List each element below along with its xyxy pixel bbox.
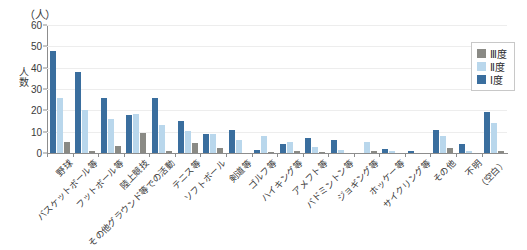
legend-swatch <box>477 49 486 58</box>
bar <box>75 72 81 153</box>
bar <box>331 140 337 153</box>
bar <box>254 150 260 153</box>
bar <box>229 130 235 153</box>
legend-item[interactable]: Ⅰ度 <box>477 73 507 86</box>
legend-label: Ⅰ度 <box>490 72 503 87</box>
bar <box>319 152 325 153</box>
x-axis-tick-label: その他 <box>430 157 458 185</box>
bar <box>126 115 132 153</box>
legend: Ⅲ度Ⅱ度Ⅰ度 <box>471 42 515 91</box>
legend-swatch <box>477 75 486 84</box>
bar-group <box>149 25 175 153</box>
bar <box>408 151 414 153</box>
bar-group <box>124 25 150 153</box>
bar <box>115 146 121 153</box>
bar-group <box>98 25 124 153</box>
bar <box>371 151 377 153</box>
bar <box>459 144 465 153</box>
bar <box>498 151 504 153</box>
bar <box>133 114 139 153</box>
bar-group <box>277 25 303 153</box>
bar-group <box>328 25 354 153</box>
plot-area: 0102030405060 <box>47 25 507 153</box>
bar <box>364 142 370 153</box>
bar <box>152 98 158 153</box>
bar <box>185 131 191 153</box>
bar <box>491 123 497 153</box>
bar <box>57 98 63 153</box>
bar <box>484 112 490 153</box>
bar <box>203 134 209 153</box>
bar <box>159 125 165 153</box>
bar <box>287 142 293 153</box>
bar-groups <box>47 25 507 153</box>
bar-chart: （人） 人数 0102030405060 野球バスケットボール等フットボール等陸… <box>0 0 527 250</box>
bar <box>178 121 184 153</box>
bar <box>64 142 70 153</box>
y-axis-title: 人数 <box>18 68 30 88</box>
x-axis-labels: 野球バスケットボール等フットボール等陸上競技その他グラウンド等での活動テニス等ソ… <box>47 157 507 249</box>
bar-group <box>73 25 99 153</box>
bar <box>338 150 344 153</box>
bar-group <box>226 25 252 153</box>
bar <box>466 151 472 153</box>
bar <box>389 151 395 153</box>
bar <box>101 98 107 153</box>
bar <box>440 136 446 153</box>
bar <box>312 147 318 153</box>
bar <box>261 136 267 153</box>
bar-group <box>252 25 278 153</box>
bar <box>294 151 300 153</box>
bar-group <box>303 25 329 153</box>
bar <box>82 110 88 153</box>
bar-group <box>175 25 201 153</box>
bar <box>166 151 172 153</box>
bar <box>210 134 216 153</box>
bar <box>382 149 388 153</box>
bar <box>108 119 114 153</box>
bar <box>140 133 146 153</box>
bar <box>280 144 286 153</box>
bar <box>433 130 439 153</box>
bar <box>89 151 95 153</box>
bar-group <box>430 25 456 153</box>
bar <box>192 143 198 153</box>
bar-group <box>405 25 431 153</box>
bar <box>217 148 223 153</box>
bar-group <box>47 25 73 153</box>
bar <box>447 148 453 153</box>
bar <box>50 51 56 153</box>
bar-group <box>200 25 226 153</box>
bar-group <box>379 25 405 153</box>
bar-group <box>354 25 380 153</box>
bar <box>268 152 274 153</box>
bar <box>236 140 242 153</box>
legend-swatch <box>477 62 486 71</box>
bar <box>305 138 311 153</box>
